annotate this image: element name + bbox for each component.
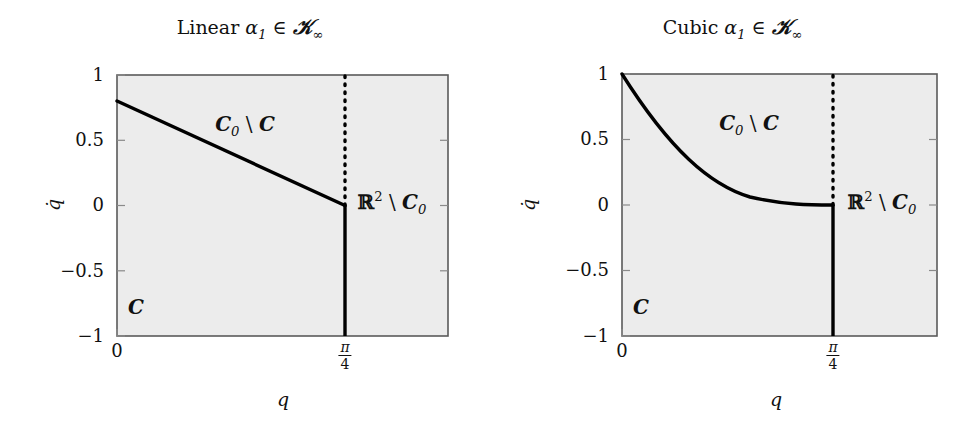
x-axis-title-cubic: q	[770, 388, 782, 410]
y-axis-title-cubic: q̇	[517, 199, 539, 211]
pi-over-4-denominator: 4	[338, 357, 351, 372]
y-tick-label-0: 0	[557, 196, 609, 214]
setminus-symbol: \	[383, 190, 402, 214]
region-label-r2-minus-c0-linear: ℝ2 \ C0	[358, 190, 427, 216]
region-label-c-cubic: C	[633, 297, 649, 317]
cal-c-0-sub: 0	[908, 202, 916, 217]
y-tick-label-neg1: −1	[557, 327, 609, 345]
pi-over-4-numerator: π	[338, 340, 351, 355]
x-tick-label-0: 0	[111, 342, 122, 360]
region-label-c0-minus-c-cubic: C0 \ C	[719, 113, 779, 137]
cal-c-0: C	[215, 112, 231, 136]
setminus-symbol: \	[239, 112, 258, 136]
region-label-r2-minus-c0-cubic: ℝ2 \ C0	[848, 190, 917, 216]
panel-linear: Linear α1 ∈ 𝒦∞	[0, 0, 500, 429]
blackboard-r: ℝ	[358, 190, 375, 214]
cal-c: C	[128, 295, 144, 319]
y-tick-label-1: 1	[52, 66, 104, 84]
y-tick-label-1: 1	[557, 65, 609, 83]
figure-container: Linear α1 ∈ 𝒦∞	[0, 0, 965, 429]
setminus-symbol: \	[743, 111, 762, 135]
region-label-c0-minus-c-linear: C0 \ C	[215, 114, 275, 138]
setminus-symbol: \	[873, 190, 892, 214]
panel-cubic: Cubic α1 ∈ 𝒦∞	[500, 0, 965, 429]
cal-c: C	[633, 295, 649, 319]
y-tick-label-neg1: −1	[52, 327, 104, 345]
blackboard-r-sup: 2	[374, 189, 382, 204]
pi-over-4-fraction: π 4	[826, 340, 839, 371]
blackboard-r: ℝ	[848, 190, 865, 214]
cal-c-0: C	[892, 190, 908, 214]
y-tick-label-0p5: 0.5	[557, 130, 609, 148]
x-tick-label-pi-over-4: π 4	[826, 340, 839, 371]
blackboard-r-sup: 2	[864, 189, 872, 204]
cal-c-0: C	[402, 190, 418, 214]
cal-c: C	[763, 111, 779, 135]
x-tick-label-0: 0	[616, 342, 627, 360]
region-label-c-linear: C	[128, 297, 144, 317]
x-axis-title-linear: q	[277, 388, 289, 410]
cal-c-0-sub: 0	[418, 202, 426, 217]
x-tick-label-pi-over-4: π 4	[338, 340, 351, 371]
pi-over-4-numerator: π	[826, 340, 839, 355]
y-axis-title-linear: q̇	[42, 199, 64, 211]
pi-over-4-denominator: 4	[826, 357, 839, 372]
pi-over-4-fraction: π 4	[338, 340, 351, 371]
y-tick-label-neg0p5: −0.5	[52, 262, 104, 280]
cal-c: C	[259, 112, 275, 136]
y-tick-label-0p5: 0.5	[52, 131, 104, 149]
cal-c-0: C	[719, 111, 735, 135]
y-tick-label-neg0p5: −0.5	[557, 261, 609, 279]
